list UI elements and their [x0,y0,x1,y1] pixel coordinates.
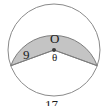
circle-sector-figure: O θ 9 17 [0,0,107,106]
angle-theta-label: θ [52,52,57,63]
radius-length-label: 9 [23,48,30,61]
center-point-label: O [50,32,59,45]
arc-length-label: 17 [45,98,58,106]
